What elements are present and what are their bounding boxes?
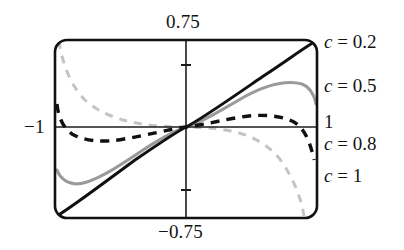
curve-label-equals: =: [337, 31, 348, 52]
curve-label-equals: =: [337, 75, 348, 96]
curve-label-value: 0.2: [353, 31, 377, 52]
y-axis-min-label: −1: [24, 117, 45, 136]
x-axis-min-label: −0.75: [158, 222, 203, 241]
curve-label-value: 0.8: [353, 133, 377, 154]
curve-label-value: 0.5: [353, 75, 377, 96]
curve-label-c-0-2: c = 0.2: [324, 32, 376, 51]
curve-label-c-0-5: c = 0.5: [324, 76, 376, 95]
y-axis-max-label: 0.75: [166, 12, 200, 31]
curve-label-equals: =: [337, 133, 348, 154]
curve-label-c-0-8: c = 0.8: [324, 134, 376, 153]
x-axis-max-label: 1: [324, 112, 334, 131]
curve-label-value: 1: [353, 165, 363, 186]
curve-label-c-1: c = 1: [324, 166, 362, 185]
curve-label-equals: =: [337, 165, 348, 186]
figure-container: 0.75 −0.75 −1 1 c = 0.2 c = 0.5 c = 0.8 …: [0, 0, 404, 250]
